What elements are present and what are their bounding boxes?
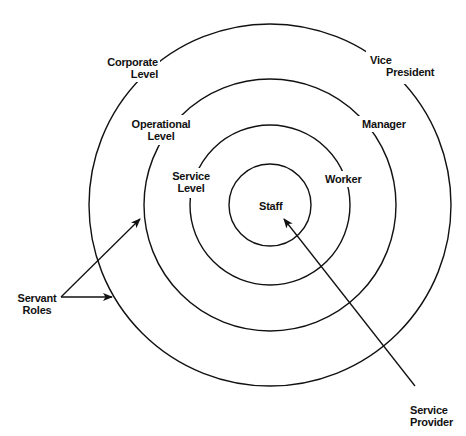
label-line: President	[370, 66, 430, 78]
label-line: Level	[128, 130, 194, 142]
label-line: Roles	[14, 304, 60, 316]
label-line: Servant	[14, 292, 60, 304]
label-line: Operational	[128, 118, 194, 130]
label-service-level: Service Level	[168, 170, 214, 194]
label-operational-level: Operational Level	[128, 118, 194, 142]
label-worker: Worker	[325, 173, 362, 185]
label-line: Service	[410, 404, 453, 416]
label-corporate-level: Corporate Level	[98, 56, 158, 80]
arrow-servant-roles-to-operational	[61, 219, 140, 297]
label-line: Provider	[410, 416, 453, 428]
label-line: Level	[168, 182, 214, 194]
label-line: Level	[98, 68, 158, 80]
label-line: Staff	[259, 200, 282, 212]
label-line: Manager	[362, 118, 406, 130]
label-line: Worker	[325, 173, 362, 185]
label-line: Corporate	[98, 56, 158, 68]
arrow-service-provider-to-staff	[284, 219, 415, 386]
label-line: Service	[168, 170, 214, 182]
label-line: Vice	[370, 54, 430, 66]
label-servant-roles: Servant Roles	[14, 292, 60, 316]
label-vice-president: Vice President	[370, 54, 430, 78]
label-manager: Manager	[362, 118, 406, 130]
label-service-provider: Service Provider	[410, 404, 453, 428]
label-staff: Staff	[259, 200, 282, 212]
